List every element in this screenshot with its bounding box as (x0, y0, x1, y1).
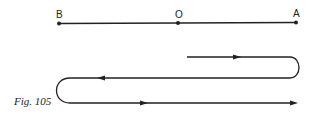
label-b: B (56, 9, 63, 20)
point-o-dot (176, 21, 180, 25)
arrow-right-icon (140, 101, 148, 106)
arrow-end-icon (290, 101, 298, 106)
label-a: A (293, 8, 300, 19)
arrow-left-icon (97, 76, 105, 81)
path-trajectory (57, 57, 300, 103)
point-a-dot (294, 21, 298, 25)
point-b-dot (57, 22, 61, 26)
figure-caption: Fig. 105 (14, 95, 51, 107)
figure: B O A Fig. 105 (0, 0, 311, 116)
arrow-right-icon (233, 55, 241, 60)
label-o: O (175, 9, 183, 20)
